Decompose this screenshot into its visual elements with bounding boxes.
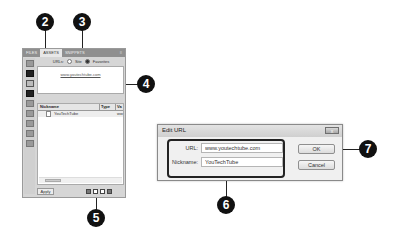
tab-assets[interactable]: ASSETS — [40, 49, 62, 57]
library-icon[interactable] — [26, 140, 34, 147]
panel-menu-icon[interactable]: ≡ — [120, 49, 125, 57]
tab-files[interactable]: FILES — [23, 49, 40, 57]
assets-list: Nickname Type Va YouTechTube ww — [37, 103, 124, 185]
edit-icon[interactable] — [100, 189, 105, 194]
callout-5: 5 — [87, 209, 105, 227]
urls-icon[interactable] — [26, 80, 34, 87]
movies-icon[interactable] — [26, 110, 34, 117]
templates-icon[interactable] — [26, 130, 34, 137]
ok-button[interactable]: OK — [298, 144, 335, 154]
url-input[interactable] — [201, 143, 283, 153]
favorites-label: Favorites — [93, 59, 109, 64]
list-header: Nickname Type Va — [38, 104, 123, 111]
callout-3: 3 — [73, 13, 91, 31]
asset-category-sidebar — [24, 58, 35, 194]
callout-2-line — [45, 30, 46, 49]
column-value[interactable]: Va — [116, 104, 123, 110]
scrollbar-thumb[interactable] — [45, 179, 61, 182]
new-favorite-icon[interactable] — [93, 189, 98, 194]
callout-4: 4 — [137, 75, 155, 93]
asset-preview: www.youtechtube.com — [37, 66, 124, 94]
panel-tab-bar: FILES ASSETS SNIPPETS ≡ — [23, 49, 125, 57]
url-label: URL: — [168, 145, 198, 151]
url-file-icon — [46, 111, 51, 117]
apply-button[interactable]: Apply — [37, 188, 54, 195]
list-item-nickname: YouTechTube — [54, 111, 117, 117]
list-item[interactable]: YouTechTube ww — [38, 111, 123, 117]
dialog-title: Edit URL — [162, 127, 186, 133]
urls-label: URLs: — [53, 59, 64, 64]
flash-icon[interactable] — [26, 90, 34, 97]
callout-2: 2 — [36, 13, 54, 31]
favorites-radio[interactable] — [85, 59, 90, 64]
tab-snippets[interactable]: SNIPPETS — [62, 49, 88, 57]
view-options: URLs: Site Favorites — [37, 58, 125, 65]
callout-7: 7 — [359, 140, 377, 158]
dialog-titlebar[interactable]: Edit URL x — [158, 125, 342, 137]
edit-url-dialog: Edit URL x URL: Nickname: OK Cancel — [157, 124, 343, 181]
nickname-label: Nickname: — [168, 159, 198, 165]
images-icon[interactable] — [26, 60, 34, 67]
nickname-input[interactable] — [201, 157, 283, 167]
callout-6: 6 — [217, 196, 235, 214]
site-radio[interactable] — [67, 59, 72, 64]
colors-icon[interactable] — [26, 70, 34, 77]
column-nickname[interactable]: Nickname — [38, 104, 100, 110]
assets-panel: FILES ASSETS SNIPPETS ≡ URLs: Site Favor… — [22, 48, 126, 198]
insert-icon[interactable] — [86, 189, 91, 194]
list-item-value: ww — [117, 111, 123, 117]
close-button[interactable]: x — [325, 127, 339, 134]
preview-url: www.youtechtube.com — [60, 72, 100, 77]
site-label: Site — [75, 59, 82, 64]
scripts-icon[interactable] — [26, 120, 34, 127]
cancel-button[interactable]: Cancel — [298, 160, 335, 170]
column-type[interactable]: Type — [100, 104, 116, 110]
panel-bottom-toolbar — [86, 189, 112, 194]
horizontal-scrollbar[interactable] — [39, 177, 122, 183]
shockwave-icon[interactable] — [26, 100, 34, 107]
remove-icon[interactable] — [107, 189, 112, 194]
